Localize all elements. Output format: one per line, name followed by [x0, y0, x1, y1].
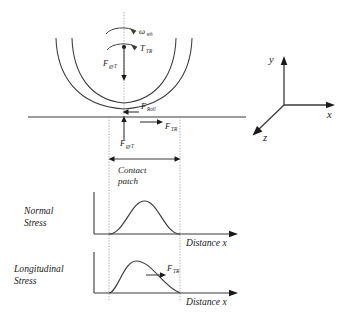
force-roll-label: F [140, 102, 147, 111]
normal-stress-curve [109, 201, 180, 234]
force-gyt-upper-label: F [102, 59, 109, 68]
force-gyt-upper-arrowhead [121, 75, 126, 81]
wheel-rail-contact-figure: ω wh T TR F gyT F Roll F TR F gyT Contac… [0, 0, 350, 318]
normal-stress-plot: Normal Stress Distance x [23, 192, 238, 248]
triad-z-label: z [262, 132, 267, 143]
normal-stress-x-axis-arrowhead [229, 231, 238, 238]
triad-z-axis-line [257, 105, 284, 131]
triad-y-label: y [268, 54, 274, 65]
longitudinal-stress-ylabel-line2: Stress [14, 275, 37, 286]
force-tr-contact-label: F [164, 122, 171, 131]
omega-wh-label: ω [139, 26, 145, 36]
force-tr-contact-subscript: TR [171, 126, 178, 132]
triad-y-arrowhead [281, 56, 288, 65]
force-tr-plot-label: F [166, 264, 173, 273]
normal-stress-ylabel-line2: Stress [24, 217, 47, 228]
force-tr-contact-arrowhead [157, 119, 163, 124]
force-gyt-upper-subscript: gyT [109, 63, 118, 69]
force-tr-plot-subscript: TR [173, 268, 180, 274]
force-roll-arrowhead [123, 109, 129, 114]
contact-patch-dimension-left-arrowhead [109, 156, 115, 161]
force-tr-plot-arrowhead [160, 272, 166, 277]
longitudinal-stress-plot: F TR Longitudinal Stress Distance x [13, 252, 238, 307]
normal-stress-xlabel: Distance x [185, 237, 228, 248]
force-gyt-lower-label: F [119, 139, 126, 148]
omega-wh-subscript: wh [147, 31, 153, 37]
coordinate-triad: y x z [253, 54, 336, 143]
force-roll-subscript: Roll [146, 106, 156, 112]
longitudinal-stress-xlabel: Distance x [185, 296, 228, 307]
longitudinal-stress-ylabel-line1: Longitudinal [13, 263, 64, 274]
triad-x-label: x [326, 109, 332, 120]
torque-tr-subscript: TR [146, 48, 153, 54]
contact-patch-label-line2: patch [117, 176, 138, 186]
contact-patch-label-line1: Contact [118, 165, 147, 175]
triad-x-arrowhead [326, 102, 335, 109]
force-gyt-lower-subscript: gyT [126, 143, 135, 149]
normal-stress-ylabel-line1: Normal [23, 205, 54, 216]
longitudinal-stress-x-axis-arrowhead [229, 290, 238, 297]
contact-patch-dimension-right-arrowhead [175, 156, 181, 161]
